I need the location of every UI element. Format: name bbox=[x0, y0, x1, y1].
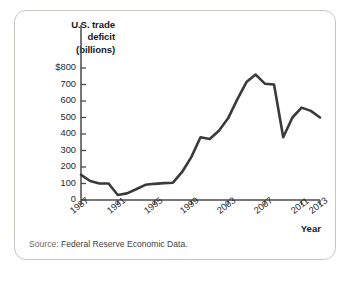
chart-axes bbox=[81, 25, 320, 200]
source-note: Source: Federal Reserve Economic Data. bbox=[29, 239, 188, 249]
y-tick-label: 200 bbox=[28, 161, 76, 171]
figure-card: U.S. trade deficit (billions) $800700600… bbox=[14, 10, 336, 260]
data-line-series-trade-deficit bbox=[81, 75, 320, 195]
source-text: Federal Reserve Economic Data. bbox=[59, 239, 188, 249]
y-tick-label: 700 bbox=[28, 79, 76, 89]
y-tick-label: $800 bbox=[28, 62, 76, 72]
y-tick-label: 300 bbox=[28, 145, 76, 155]
x-axis-title: Year bbox=[301, 223, 321, 234]
y-tick-label: 400 bbox=[28, 128, 76, 138]
source-label: Source: bbox=[29, 239, 59, 249]
y-tick-label: 100 bbox=[28, 178, 76, 188]
y-tick-label: 500 bbox=[28, 112, 76, 122]
plot-area: $8007006005004003002001000 1987199119951… bbox=[15, 11, 337, 261]
y-tick-label: 0 bbox=[28, 194, 76, 204]
y-tick-label: 600 bbox=[28, 95, 76, 105]
